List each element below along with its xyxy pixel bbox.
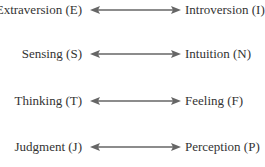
double-arrow-icon [90,4,181,16]
label-sensing: Sensing (S) [22,45,82,63]
double-arrow-icon [90,48,181,60]
label-perception: Perception (P) [185,138,260,156]
dimension-row-sn: Sensing (S) Intuition (N) [0,45,265,63]
label-intuition: Intuition (N) [185,45,251,63]
double-arrow-icon [90,141,181,153]
dimension-row-jp: Judgment (J) Perception (P) [0,138,265,156]
dimension-row-ei: Extraversion (E) Introversion (I) [0,1,265,19]
double-arrow-icon [90,95,181,107]
dimension-row-tf: Thinking (T) Feeling (F) [0,92,265,110]
label-thinking: Thinking (T) [14,92,82,110]
label-judgment: Judgment (J) [14,138,82,156]
label-extraversion: Extraversion (E) [0,1,82,19]
label-feeling: Feeling (F) [185,92,243,110]
label-introversion: Introversion (I) [185,1,265,19]
